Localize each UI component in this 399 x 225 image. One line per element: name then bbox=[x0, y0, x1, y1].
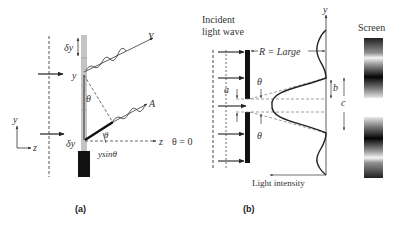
label-y-axis: y bbox=[322, 4, 328, 15]
panel-b: Incident light wave a θ θ R = Large bbox=[202, 4, 385, 214]
caption-a: (a) bbox=[75, 204, 86, 214]
label-theta-mid: θ bbox=[86, 93, 91, 104]
label-z: z bbox=[158, 136, 163, 147]
slit-barrier-top bbox=[245, 50, 250, 99]
label-delta-y-bottom: δy bbox=[66, 138, 76, 149]
label-screen: Screen bbox=[358, 22, 385, 33]
label-y: y bbox=[71, 70, 77, 81]
label-theta-zero: θ = 0 bbox=[172, 136, 192, 147]
slit-barrier bbox=[78, 151, 90, 177]
label-delta-y-top: δy bbox=[64, 42, 74, 53]
label-incident-2: light wave bbox=[202, 26, 244, 37]
label-ray-A: A bbox=[148, 98, 156, 109]
label-theta-bottom: θ bbox=[257, 130, 262, 141]
coordinate-axes-icon: y z bbox=[12, 114, 37, 153]
panel-a: δy y Y θ A θ z θ = 0 δy ysinθ y z bbox=[12, 31, 192, 214]
screen-band-top bbox=[364, 38, 383, 98]
label-y-sin-theta: ysinθ bbox=[97, 149, 117, 159]
ray-A bbox=[113, 104, 147, 122]
label-incident-1: Incident bbox=[202, 14, 235, 25]
axes-label-y: y bbox=[12, 114, 18, 125]
label-ray-Y: Y bbox=[148, 31, 155, 42]
diffraction-figure: δy y Y θ A θ z θ = 0 δy ysinθ y z bbox=[0, 0, 399, 225]
caption-b: (b) bbox=[243, 204, 255, 214]
label-c: c bbox=[341, 97, 346, 108]
label-b: b bbox=[333, 82, 338, 93]
label-light-intensity: Light intensity bbox=[252, 178, 305, 188]
label-a: a bbox=[224, 84, 229, 95]
label-r-large: R = Large bbox=[258, 46, 301, 57]
axes-label-z: z bbox=[32, 142, 37, 153]
path-difference-segment bbox=[85, 122, 113, 140]
label-theta-top: θ bbox=[257, 76, 262, 87]
screen-band-bottom bbox=[364, 117, 383, 178]
slit-barrier-bottom bbox=[245, 112, 250, 163]
